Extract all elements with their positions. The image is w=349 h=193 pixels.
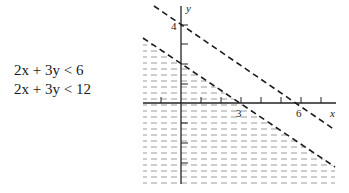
y-axis-label: y bbox=[185, 2, 191, 14]
graph: y 4 3 6 x bbox=[0, 0, 349, 193]
y-tick-label-4: 4 bbox=[171, 20, 177, 32]
x-tick-label-6: 6 bbox=[296, 107, 302, 119]
x-tick-label-3: 3 bbox=[236, 107, 242, 119]
x-axis-label: x bbox=[329, 107, 335, 119]
